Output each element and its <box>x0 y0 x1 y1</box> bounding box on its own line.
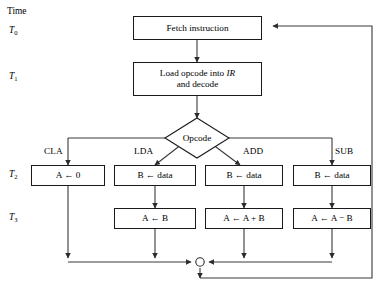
time-label-t3-sub: 3 <box>14 216 17 223</box>
box-cla-t2[interactable]: A ← 0 <box>31 165 105 186</box>
box-load-opcode-ir: IR <box>226 68 235 78</box>
box-add-t2-label: B ← data <box>226 170 261 181</box>
opcode-decision[interactable]: Opcode <box>165 118 229 158</box>
box-lda-t2-label: B ← data <box>137 170 172 181</box>
box-cla-t2-label: A ← 0 <box>56 170 81 181</box>
time-label-t0: T0 <box>9 25 18 35</box>
box-sub-t3[interactable]: A ← A − B <box>293 208 371 229</box>
box-sub-t2-label: B ← data <box>314 170 349 181</box>
box-add-t3-label: A ← A + B <box>223 213 264 224</box>
time-label-t3: T3 <box>9 212 18 222</box>
box-fetch-instruction-label: Fetch instruction <box>166 23 228 34</box>
box-add-t2[interactable]: B ← data <box>205 165 283 186</box>
branch-label-add: ADD <box>243 146 263 156</box>
time-label-t2: T2 <box>9 169 18 179</box>
box-sub-t2[interactable]: B ← data <box>293 165 371 186</box>
branch-label-lda: LDA <box>134 146 153 156</box>
time-label-t1: T1 <box>9 71 18 81</box>
branch-label-cla: CLA <box>44 146 63 156</box>
branch-label-sub: SUB <box>335 146 353 156</box>
box-add-t3[interactable]: A ← A + B <box>205 208 283 229</box>
time-label-t2-sub: 2 <box>14 173 17 180</box>
box-lda-t2[interactable]: B ← data <box>114 165 196 186</box>
opcode-decision-label: Opcode <box>165 118 229 158</box>
box-load-opcode-line2: and decode <box>177 79 219 90</box>
merge-junction-icon <box>196 258 204 266</box>
time-label-t0-sub: 0 <box>14 29 17 36</box>
box-fetch-instruction[interactable]: Fetch instruction <box>133 16 262 40</box>
box-lda-t3[interactable]: A ← B <box>114 208 196 229</box>
box-load-opcode-line1: Load opcode into IR <box>160 68 235 79</box>
time-label-t1-sub: 1 <box>14 75 17 82</box>
box-load-opcode-line1-text: Load opcode into <box>160 68 227 78</box>
flowchart-canvas: Time T0 T1 T2 T3 Fetch instruction Load … <box>0 0 386 287</box>
time-column-header: Time <box>7 6 26 16</box>
box-lda-t3-label: A ← B <box>142 213 168 224</box>
box-sub-t3-label: A ← A − B <box>311 213 352 224</box>
box-load-opcode[interactable]: Load opcode into IR and decode <box>133 62 262 96</box>
